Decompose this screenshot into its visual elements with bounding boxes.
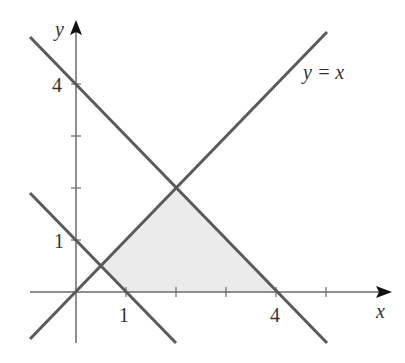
line-x-plus-y-equals-4 [30,37,327,343]
line-label-y-equals-x: y = x [301,61,344,84]
tick-label-y-1: 1 [54,230,64,252]
line-y-equals-x [30,32,327,339]
tick-label-x-4: 4 [270,304,280,326]
tick-label-x-1: 1 [119,304,129,326]
y-axis-label: y [53,18,64,41]
tick-label-y-4: 4 [52,74,62,96]
x-axis-label: x [375,300,385,322]
region-diagram: y x 4 1 1 4 y = x [0,0,405,363]
